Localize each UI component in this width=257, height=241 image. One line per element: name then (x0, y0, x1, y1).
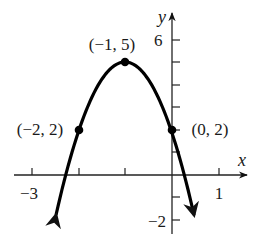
x-ticks (32, 168, 219, 175)
x-axis-label: x (237, 150, 246, 170)
left-point-label: (−2, 2) (17, 120, 63, 139)
parabola-graph: y x 6 −2 −3 1 (−1, 5) (−2, 2) (0, 2) (0, 0, 257, 241)
tick-label-y-6: 6 (154, 31, 163, 50)
tick-label-x-neg3: −3 (20, 184, 38, 203)
right-point (168, 126, 177, 135)
vertex-label: (−1, 5) (89, 35, 135, 54)
y-axis-label: y (156, 7, 166, 27)
vertex-point (121, 58, 130, 67)
right-point-label: (0, 2) (192, 120, 229, 139)
tick-label-y-neg2: −2 (148, 212, 166, 231)
left-point (75, 126, 84, 135)
tick-label-x-1: 1 (215, 184, 224, 203)
